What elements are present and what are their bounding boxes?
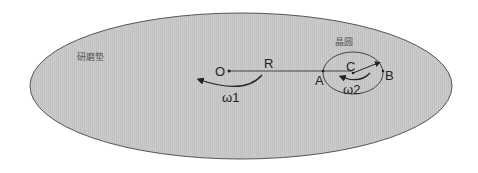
wafer-label: 晶圆 bbox=[335, 37, 353, 47]
cmp-diagram: 研磨垫 晶圆 O R A C B ω1 ω2 bbox=[0, 0, 478, 173]
point-o-dot bbox=[228, 70, 231, 73]
label-omega2: ω2 bbox=[343, 82, 360, 97]
label-b: B bbox=[385, 68, 394, 83]
pad-label: 研磨垫 bbox=[77, 51, 104, 62]
label-c: C bbox=[346, 59, 355, 74]
label-omega1: ω1 bbox=[222, 90, 239, 105]
point-a-dot bbox=[322, 70, 325, 73]
label-o: O bbox=[215, 64, 225, 79]
point-b-dot bbox=[382, 70, 385, 73]
label-a: A bbox=[315, 73, 324, 88]
label-r: R bbox=[264, 56, 273, 71]
